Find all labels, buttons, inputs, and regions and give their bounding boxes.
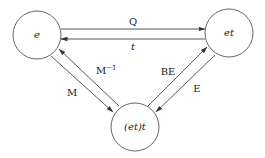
node-ett: (et)t (111, 103, 159, 151)
edge-label-BE: BE (161, 66, 176, 77)
edge-label-M-inverse: M−1 (96, 64, 117, 76)
node-e: e (13, 11, 61, 59)
node-et-label: et (224, 27, 235, 38)
node-e-label: e (34, 29, 40, 40)
node-et: et (205, 9, 253, 57)
node-ett-label: (et)t (124, 121, 147, 132)
edge-E (156, 55, 215, 112)
edge-label-M: M (67, 87, 77, 98)
edge-label-E: E (193, 83, 200, 94)
edge-BE (148, 47, 207, 106)
edge-label-t: t (131, 41, 136, 52)
edge-label-Q: Q (129, 16, 137, 27)
type-shift-diagram: e et (et)t Q t M M−1 BE E (0, 0, 265, 158)
